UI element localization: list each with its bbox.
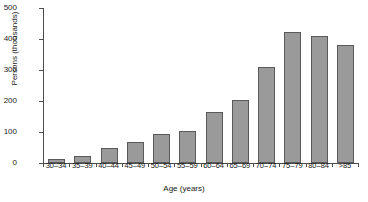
x-tick-label: >85	[330, 161, 360, 170]
bar-slot	[175, 8, 201, 163]
bar-slot	[202, 8, 228, 163]
y-tick-label: 500	[0, 4, 17, 12]
bar-slot	[149, 8, 175, 163]
y-tick-label: 200	[0, 97, 17, 105]
bar-slot	[280, 8, 306, 163]
bar	[153, 134, 170, 163]
y-tick	[39, 8, 43, 9]
x-axis-title: Age (years)	[0, 184, 368, 193]
bar-slot	[70, 8, 96, 163]
y-tick-label: 300	[0, 66, 17, 74]
bar-slot	[254, 8, 280, 163]
y-tick-label: 400	[0, 35, 17, 43]
bar-slot	[333, 8, 359, 163]
bar-slot	[307, 8, 333, 163]
y-axis-title: Persons (thousands)	[10, 0, 19, 109]
bar-slot	[44, 8, 70, 163]
y-tick	[39, 70, 43, 71]
bar	[179, 131, 196, 163]
bar-slot	[123, 8, 149, 163]
bar	[206, 112, 223, 163]
bar	[311, 36, 328, 163]
bar	[232, 100, 249, 163]
y-tick	[39, 39, 43, 40]
bar-slot	[228, 8, 254, 163]
plot-area	[43, 8, 359, 163]
bar	[284, 32, 301, 163]
y-tick-label: 100	[0, 128, 17, 136]
bar	[127, 142, 144, 163]
y-tick	[39, 132, 43, 133]
y-tick-label: 0	[0, 159, 17, 167]
bar-chart: Persons (thousands) 0100200300400500 30–…	[0, 0, 368, 202]
bar	[258, 67, 275, 163]
bar-series	[44, 8, 359, 163]
y-tick	[39, 101, 43, 102]
bar-slot	[97, 8, 123, 163]
bar	[337, 45, 354, 163]
